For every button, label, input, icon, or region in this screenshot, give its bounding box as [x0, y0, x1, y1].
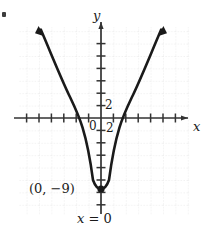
axis-of-symmetry-label: x = 0 [77, 212, 112, 225]
y-axis-arrowhead [98, 22, 103, 29]
parabola-figure: y x 2 2 0 (0, −9) x = 0 [0, 0, 205, 236]
axis-of-symmetry-equals-value: = 0 [88, 211, 111, 226]
y-axis-label: y [93, 9, 100, 22]
x-axis-label: x [193, 120, 200, 133]
y-axis-tick-label-2: 2 [105, 99, 113, 111]
axis-of-symmetry-variable: x [77, 211, 84, 226]
graph-canvas [0, 0, 205, 236]
vertex-point-marker [97, 185, 104, 192]
x-axis-tick-label-2: 2 [106, 122, 114, 134]
origin-label: 0 [89, 120, 97, 132]
vertex-coordinate-label: (0, −9) [29, 182, 75, 195]
